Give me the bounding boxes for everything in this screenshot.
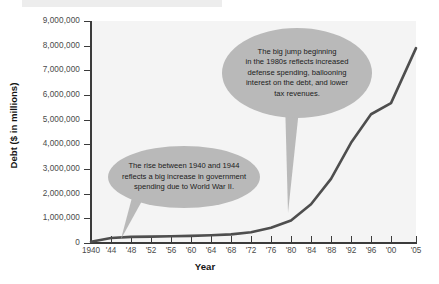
y-tick-label: 9,000,000 xyxy=(0,17,80,25)
callout-text-ww2: The rise between 1940 and 1944 reflects … xyxy=(114,161,254,192)
x-tick-label: '05 xyxy=(411,246,422,255)
x-axis-title: Year xyxy=(90,261,320,272)
x-tick-label: 1940 xyxy=(82,246,100,255)
x-tick-mark xyxy=(191,236,192,243)
x-axis-line xyxy=(90,242,417,244)
x-tick-label: '80 xyxy=(286,246,297,255)
x-tick-label: '84 xyxy=(306,246,317,255)
y-tick-mark xyxy=(84,194,91,195)
y-tick-mark xyxy=(84,243,91,244)
x-tick-label: '88 xyxy=(326,246,337,255)
y-tick-mark xyxy=(84,144,91,145)
callout-bubble-1980s: The big jump beginning in the 1980s refl… xyxy=(222,28,372,118)
callout-text-1980s: The big jump beginning in the 1980s refl… xyxy=(236,47,359,99)
x-tick-label: '96 xyxy=(366,246,377,255)
y-tick-mark xyxy=(84,218,91,219)
x-tick-label: '48 xyxy=(126,246,137,255)
y-tick-label: 8,000,000 xyxy=(0,42,80,50)
x-tick-mark xyxy=(91,236,92,243)
y-tick-mark xyxy=(84,95,91,96)
y-axis-title: Debt ($ in millions) xyxy=(8,61,19,191)
y-tick-mark xyxy=(84,120,91,121)
x-tick-mark xyxy=(151,236,152,243)
x-tick-mark xyxy=(231,236,232,243)
x-tick-mark xyxy=(311,236,312,243)
y-tick-mark xyxy=(84,21,91,22)
x-tick-mark xyxy=(391,236,392,243)
x-tick-mark xyxy=(251,236,252,243)
x-tick-label: '00 xyxy=(386,246,397,255)
y-tick-label: 0 xyxy=(0,239,80,247)
x-tick-mark xyxy=(291,236,292,243)
x-tick-label: '72 xyxy=(246,246,257,255)
x-tick-mark xyxy=(111,236,112,243)
y-tick-mark xyxy=(84,70,91,71)
x-tick-mark xyxy=(331,236,332,243)
y-tick-mark xyxy=(84,46,91,47)
y-axis-line xyxy=(90,21,92,244)
x-tick-label: '60 xyxy=(186,246,197,255)
y-tick-mark xyxy=(84,169,91,170)
y-tick-label: 1,000,000 xyxy=(0,214,80,222)
x-tick-label: '64 xyxy=(206,246,217,255)
y-tick-label: 2,000,000 xyxy=(0,190,80,198)
debt-line-chart: 9,000,0008,000,0007,000,0006,000,0005,00… xyxy=(0,0,439,284)
x-tick-mark xyxy=(416,236,417,243)
x-tick-label: '92 xyxy=(346,246,357,255)
callout-bubble-ww2: The rise between 1940 and 1944 reflects … xyxy=(108,146,260,208)
x-tick-mark xyxy=(371,236,372,243)
x-tick-mark xyxy=(131,236,132,243)
x-tick-mark xyxy=(171,236,172,243)
x-tick-label: '52 xyxy=(146,246,157,255)
x-tick-mark xyxy=(211,236,212,243)
x-tick-label: '44 xyxy=(106,246,117,255)
x-tick-label: '56 xyxy=(166,246,177,255)
x-tick-label: '68 xyxy=(226,246,237,255)
x-tick-mark xyxy=(351,236,352,243)
x-tick-label: '76 xyxy=(266,246,277,255)
x-tick-mark xyxy=(271,236,272,243)
